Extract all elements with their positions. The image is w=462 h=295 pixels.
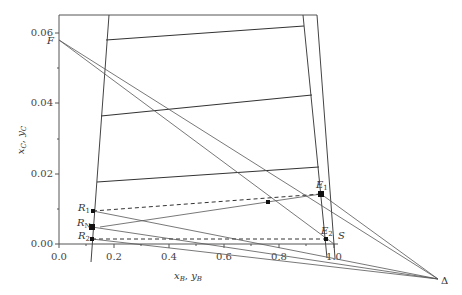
label-S: S (338, 230, 345, 241)
tie-line-1 (106, 26, 304, 40)
tie-line-3 (97, 167, 319, 182)
point-labels: F R1 RN R2 E1 E2 S Δ (46, 35, 448, 286)
line-F-delta (59, 40, 438, 279)
extract-binodal-outer (317, 15, 335, 258)
x-tick-1: 0.2 (106, 251, 122, 262)
point-M (266, 200, 270, 204)
extract-binodal-inner (303, 15, 327, 258)
label-F: F (46, 35, 55, 46)
label-delta: Δ (441, 275, 448, 286)
y-tick-2: 0.04 (31, 97, 53, 108)
line-F-S (59, 40, 334, 244)
tie-line-2 (101, 95, 312, 116)
point-R1 (91, 209, 95, 213)
construction-lines (59, 40, 438, 279)
tie-lines (97, 26, 319, 182)
x-tick-2: 0.4 (161, 251, 177, 262)
y-tick-labels: 0.00 0.02 0.04 0.06 (31, 27, 53, 249)
line-RN-delta (92, 227, 438, 279)
binodal-curves (91, 15, 335, 262)
label-E1: E1 (315, 179, 328, 192)
point-R2 (90, 237, 94, 241)
x-ticks (59, 244, 334, 248)
x-axis-label: xB, yB (174, 270, 202, 283)
x-tick-0: 0.0 (51, 251, 67, 262)
y-ticks (55, 33, 59, 244)
label-R2: R2 (77, 230, 90, 243)
x-tick-3: 0.6 (216, 251, 232, 262)
y-axis-label: xC, yC (15, 125, 28, 154)
y-tick-1: 0.02 (31, 168, 53, 179)
dashed-R1-E1 (93, 194, 321, 211)
x-tick-labels: 0.0 0.2 0.4 0.6 0.8 1.0 (51, 251, 342, 262)
label-R1: R1 (77, 202, 90, 215)
label-RN: RN (76, 217, 91, 230)
label-E2: E2 (320, 225, 333, 238)
line-RN-E1 (100, 194, 321, 227)
ternary-extraction-diagram: 0.00 0.02 0.04 0.06 0.0 0.2 0.4 0.6 0.8 … (0, 0, 462, 295)
y-tick-0: 0.00 (31, 238, 53, 249)
x-tick-5: 1.0 (326, 251, 342, 262)
